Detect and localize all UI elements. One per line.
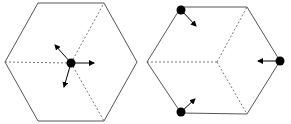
dashed-divider — [217, 7, 247, 62]
right-hexagon — [147, 6, 285, 117]
dashed-divider — [71, 3, 104, 63]
dashed-divider — [5, 62, 71, 63]
left-hexagon — [5, 3, 137, 121]
dashed-divider — [71, 63, 104, 121]
hexagon-diagram — [0, 0, 291, 124]
particle — [67, 59, 76, 68]
particle — [276, 57, 285, 66]
dashed-divider — [217, 62, 247, 114]
particle — [177, 6, 186, 15]
particle — [177, 108, 186, 117]
